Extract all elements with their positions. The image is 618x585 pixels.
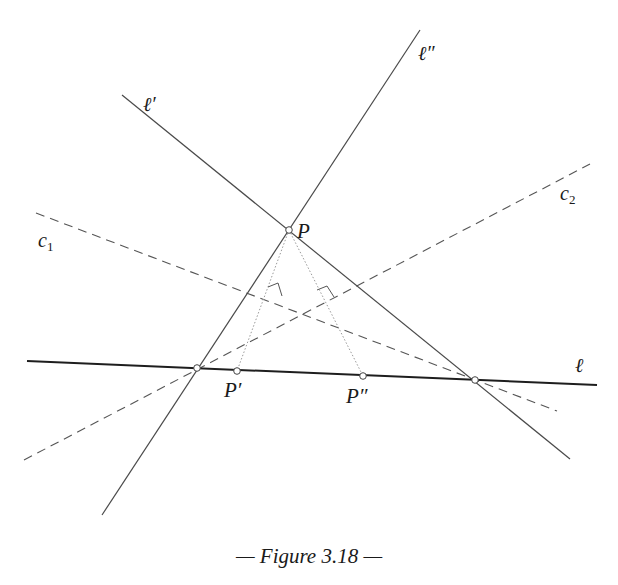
point-intersection-left	[194, 365, 201, 372]
label-P-double-prime: P″	[345, 384, 368, 408]
line-c2	[24, 164, 590, 460]
right-angle-marker-1	[268, 283, 282, 296]
label-l: ℓ	[575, 354, 584, 376]
figure-caption: — Figure 3.18 —	[235, 544, 383, 568]
label-l-prime: ℓ′	[143, 93, 156, 115]
label-c1: c1	[38, 229, 53, 254]
label-l-double-prime: ℓ″	[418, 42, 435, 64]
label-c2-subscript: 2	[569, 192, 576, 207]
label-c1-subscript: 1	[47, 239, 54, 254]
line-l	[27, 361, 597, 385]
label-c2-base: c	[560, 182, 569, 204]
point-P	[286, 227, 293, 234]
label-c2: c2	[560, 182, 575, 207]
point-P-double-prime	[360, 373, 367, 380]
label-P-prime: P′	[223, 378, 242, 402]
point-P-prime	[234, 368, 241, 375]
perpendicular-P-to-P-double-prime	[289, 230, 363, 376]
label-c1-base: c	[38, 229, 47, 251]
point-intersection-right	[472, 377, 479, 384]
label-P: P	[296, 219, 310, 243]
perpendicular-P-to-P-prime	[237, 230, 289, 371]
right-angle-marker-2	[317, 286, 334, 297]
geometry-figure: ℓ′ ℓ″ ℓ c1 c2 P P′ P″ — Figure 3.18 —	[0, 0, 618, 585]
